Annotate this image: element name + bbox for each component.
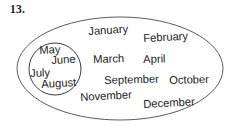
venn-diagram-figure: 13. JanuaryFebruaryMarchAprilSeptemberOc… [0, 0, 233, 129]
month-label-january: January [88, 24, 128, 38]
month-label-march: March [93, 53, 124, 66]
month-label-april: April [143, 53, 166, 65]
month-label-february: February [143, 31, 188, 45]
month-label-october: October [169, 74, 209, 87]
month-label-august: August [41, 77, 76, 91]
month-label-september: September [104, 74, 159, 87]
month-label-june: June [51, 54, 76, 67]
